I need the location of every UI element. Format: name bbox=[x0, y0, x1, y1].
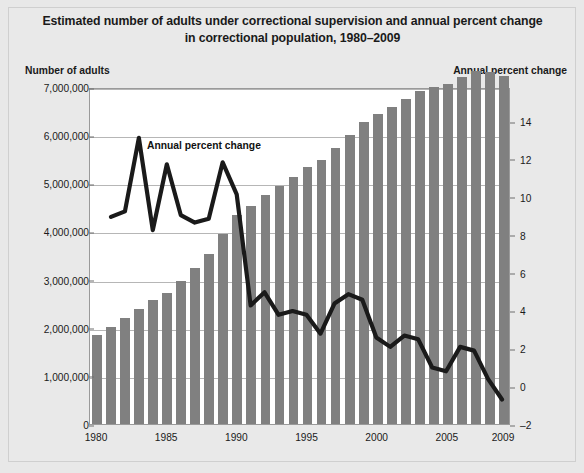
tick-mark bbox=[510, 311, 515, 312]
tick-mark bbox=[89, 232, 94, 233]
y-axis-tick-label: 4,000,000 bbox=[31, 227, 89, 238]
x-axis-tick-label: 2005 bbox=[436, 432, 459, 443]
tick-mark bbox=[510, 349, 515, 350]
chart-title: Estimated number of adults under correct… bbox=[40, 13, 545, 47]
plot-area bbox=[89, 88, 510, 425]
tick-mark bbox=[89, 281, 94, 282]
y2-axis-tick-label: 0 bbox=[510, 382, 544, 393]
tick-mark bbox=[510, 425, 515, 426]
tick-mark bbox=[89, 377, 94, 378]
left-axis-title: Number of adults bbox=[25, 65, 110, 76]
y2-axis-tick-label: 12 bbox=[510, 154, 544, 165]
y-axis-tick-label: 1,000,000 bbox=[31, 371, 89, 382]
chart-figure: Estimated number of adults under correct… bbox=[0, 0, 584, 473]
tick-mark bbox=[510, 387, 515, 388]
x-axis-tick-label: 1985 bbox=[155, 432, 178, 443]
y2-axis-tick-label: 10 bbox=[510, 192, 544, 203]
x-axis-tick-label: 2009 bbox=[492, 432, 515, 443]
series-annotation-label: Annual percent change bbox=[147, 140, 261, 151]
tick-mark bbox=[89, 425, 94, 426]
x-axis-tick-label: 2000 bbox=[365, 432, 388, 443]
tick-mark bbox=[89, 329, 94, 330]
tick-mark bbox=[510, 122, 515, 123]
y2-axis-tick-label: –2 bbox=[510, 420, 544, 431]
y2-axis-tick-label: 8 bbox=[510, 230, 544, 241]
y-axis-tick-label: 2,000,000 bbox=[31, 323, 89, 334]
x-axis-tick-label: 1980 bbox=[85, 432, 108, 443]
x-axis-tick-label: 1995 bbox=[295, 432, 318, 443]
y-axis-tick-label: 6,000,000 bbox=[31, 131, 89, 142]
tick-mark bbox=[89, 88, 94, 89]
tick-mark bbox=[510, 160, 515, 161]
tick-mark bbox=[89, 136, 94, 137]
x-axis-tick-label: 1990 bbox=[225, 432, 248, 443]
tick-mark bbox=[510, 198, 515, 199]
y2-axis-tick-label: 2 bbox=[510, 344, 544, 355]
y-axis-tick-label: 0 bbox=[31, 420, 89, 431]
tick-mark bbox=[89, 184, 94, 185]
tick-mark bbox=[510, 274, 515, 275]
y2-axis-tick-label: 14 bbox=[510, 117, 544, 128]
y2-axis-tick-label: 4 bbox=[510, 306, 544, 317]
y-axis-tick-label: 3,000,000 bbox=[31, 275, 89, 286]
y-axis-tick-label: 5,000,000 bbox=[31, 179, 89, 190]
tick-mark bbox=[510, 236, 515, 237]
y2-axis-tick-label: 6 bbox=[510, 268, 544, 279]
y-axis-tick-label: 7,000,000 bbox=[31, 83, 89, 94]
